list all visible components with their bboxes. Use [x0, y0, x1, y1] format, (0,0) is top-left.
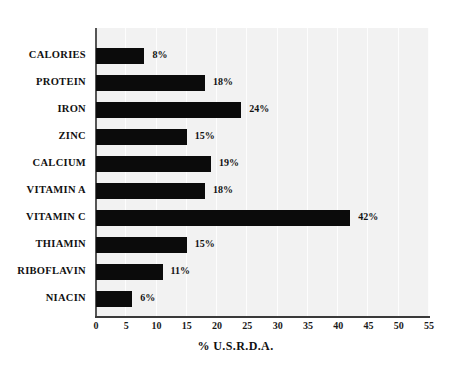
bar-row: NIACIN6% [0, 288, 471, 315]
category-label: VITAMIN C [0, 211, 86, 222]
bar-value-label: 8% [152, 49, 167, 60]
bar-value-label: 6% [140, 292, 155, 303]
category-label: ZINC [0, 130, 86, 141]
bar-value-label: 19% [219, 157, 239, 168]
bar-value-label: 18% [213, 76, 233, 87]
bar [96, 237, 187, 253]
category-label: CALORIES [0, 49, 86, 60]
x-axis-title: % U.S.R.D.A. [0, 339, 471, 354]
bar-value-label: 42% [358, 211, 378, 222]
bar-row: PROTEIN18% [0, 72, 471, 99]
bar-value-label: 15% [195, 130, 215, 141]
category-label: CALCIUM [0, 157, 86, 168]
bar [96, 156, 211, 172]
x-tick-label: 25 [232, 320, 262, 331]
category-label: NIACIN [0, 292, 86, 303]
x-tick-label: 35 [293, 320, 323, 331]
bar [96, 75, 205, 91]
bar [96, 210, 350, 226]
bar-row: THIAMIN15% [0, 234, 471, 261]
x-tick-label: 20 [202, 320, 232, 331]
x-axis-line [95, 316, 430, 318]
chart-page: CALORIES8%PROTEIN18%IRON24%ZINC15%CALCIU… [0, 0, 471, 366]
bar [96, 183, 205, 199]
category-label: THIAMIN [0, 238, 86, 249]
bar [96, 102, 241, 118]
bar-value-label: 11% [171, 265, 190, 276]
bar-row: CALCIUM19% [0, 153, 471, 180]
bar-row: CALORIES8% [0, 45, 471, 72]
bar-row: VITAMIN C42% [0, 207, 471, 234]
category-label: RIBOFLAVIN [0, 265, 86, 276]
x-tick-label: 30 [263, 320, 293, 331]
bar-row: RIBOFLAVIN11% [0, 261, 471, 288]
bar-row: VITAMIN A18% [0, 180, 471, 207]
bar [96, 291, 132, 307]
bar [96, 129, 187, 145]
category-label: PROTEIN [0, 76, 86, 87]
bar-value-label: 24% [249, 103, 269, 114]
x-tick-label: 15 [172, 320, 202, 331]
x-tick-label: 50 [384, 320, 414, 331]
bar-row: IRON24% [0, 99, 471, 126]
bar [96, 48, 144, 64]
x-tick-label: 5 [111, 320, 141, 331]
x-tick-label: 40 [323, 320, 353, 331]
category-label: IRON [0, 103, 86, 114]
bar [96, 264, 163, 280]
x-tick-label: 55 [414, 320, 444, 331]
x-tick-label: 45 [353, 320, 383, 331]
bar-value-label: 15% [195, 238, 215, 249]
x-tick-label: 0 [81, 320, 111, 331]
category-label: VITAMIN A [0, 184, 86, 195]
x-tick-label: 10 [142, 320, 172, 331]
bar-row: ZINC15% [0, 126, 471, 153]
bar-value-label: 18% [213, 184, 233, 195]
